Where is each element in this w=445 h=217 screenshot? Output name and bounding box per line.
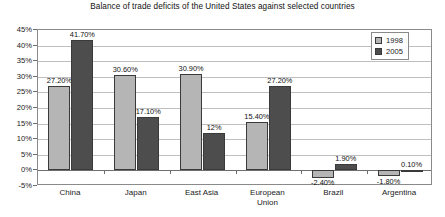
bar-value-label: 27.20% <box>267 76 292 85</box>
y-axis-tick-label: 5% <box>0 149 32 158</box>
bar-value-label: 12% <box>207 123 222 132</box>
y-axis-tick-label: 10% <box>0 134 32 143</box>
bar-chart: Balance of trade deficits of the United … <box>0 0 445 217</box>
x-axis-category-label: Japan <box>125 188 147 198</box>
chart-legend: 19982005 <box>371 32 409 60</box>
bar-1998 <box>312 170 334 177</box>
bar-group: 27.20%41.70% <box>38 30 104 184</box>
bar-1998 <box>114 75 136 170</box>
legend-item: 2005 <box>375 46 403 57</box>
bar-value-label: -2.40% <box>311 178 334 187</box>
y-axis-tick-label: 25% <box>0 87 32 96</box>
x-axis-category-label: Brazil <box>323 188 343 198</box>
bar-1998 <box>48 86 70 171</box>
y-axis-tick-label: 40% <box>0 40 32 49</box>
legend-item: 1998 <box>375 35 403 46</box>
bar-group: 30.60%17.10% <box>104 30 170 184</box>
legend-label: 1998 <box>386 36 403 45</box>
bar-value-label: -1.80% <box>377 177 400 186</box>
bar-value-label: 17.10% <box>136 107 161 116</box>
legend-swatch-icon <box>375 48 382 55</box>
bar-value-label: 30.90% <box>179 64 204 73</box>
bar-value-label: 0.10% <box>401 160 422 169</box>
y-axis-tick-label: 35% <box>0 56 32 65</box>
bar-value-label: 1.90% <box>335 154 356 163</box>
y-axis-tick-label: 15% <box>0 118 32 127</box>
bar-group: 15.40%27.20% <box>236 30 302 184</box>
y-axis-tick-label: -5% <box>0 181 32 190</box>
x-axis-category-label: East Asia <box>185 188 218 198</box>
y-axis-tick-label: 20% <box>0 103 32 112</box>
x-axis-category-label: European Union <box>250 188 285 208</box>
bar-2005 <box>401 170 423 172</box>
bar-2005 <box>269 86 291 171</box>
bar-2005 <box>137 117 159 170</box>
bar-value-label: 30.60% <box>113 65 138 74</box>
y-axis-tick-label: 0% <box>0 165 32 174</box>
y-axis-tick-label: 30% <box>0 71 32 80</box>
bar-1998 <box>246 122 268 170</box>
bar-2005 <box>203 133 225 170</box>
bar-group: 30.90%12% <box>170 30 236 184</box>
bar-1998 <box>378 170 400 176</box>
legend-label: 2005 <box>386 47 403 56</box>
bar-1998 <box>180 74 202 170</box>
bar-value-label: 15.40% <box>244 112 269 121</box>
bar-value-label: 27.20% <box>47 76 72 85</box>
legend-swatch-icon <box>375 37 382 44</box>
bar-2005 <box>71 40 93 170</box>
bar-2005 <box>335 164 357 170</box>
bar-value-label: 41.70% <box>70 30 95 39</box>
chart-title: Balance of trade deficits of the United … <box>0 2 445 11</box>
x-axis-category-label: Argentina <box>382 188 416 198</box>
y-axis-tick-label: 45% <box>0 25 32 34</box>
bar-group: -2.40%1.90% <box>301 30 367 184</box>
y-axis-tick-mark <box>33 185 37 186</box>
x-axis-category-label: China <box>59 188 80 198</box>
